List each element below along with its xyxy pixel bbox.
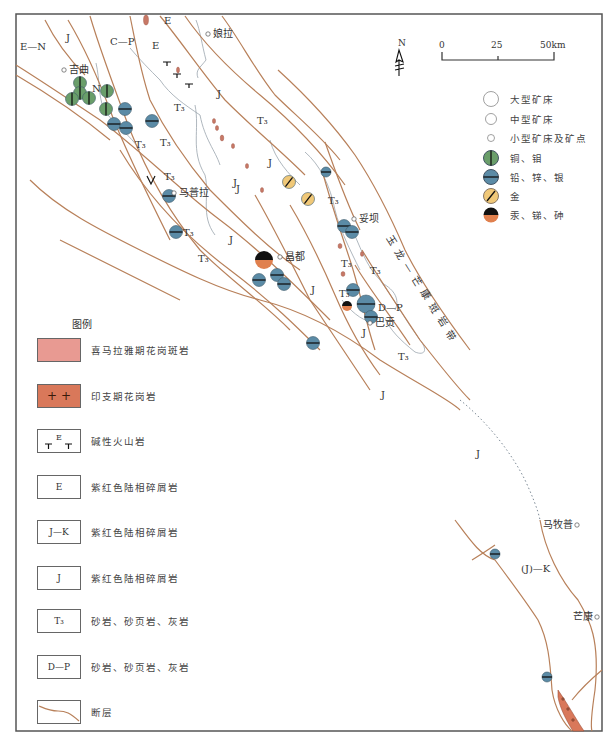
place-name: 娘拉 [213,27,233,39]
legend-medium-deposit: 中型矿床 [480,110,554,128]
legend-label: 汞、锑、砷 [510,208,565,222]
pb-zn-ag-deposit-icon [146,115,159,128]
fault-swatch [37,700,81,724]
legend-label: 断层 [91,705,113,719]
pb-zn-ag-deposit-icon [119,103,132,116]
north-arrow: N [395,38,406,76]
place-marker: 娘拉 [206,27,233,39]
inferred-fault [460,400,540,520]
unit-label: J [267,157,272,168]
unit-label: J [310,284,315,295]
place-marker: 芒康 [573,610,599,622]
unit-label: E [152,40,159,51]
unit-label: T₃ [398,351,409,362]
scale-tick-50: 50km [540,40,565,50]
place-name: 芒康 [573,610,593,622]
au-icon [480,187,502,205]
legend-label: 金 [510,189,521,203]
legend-label: 砂岩、砂页岩、灰岩 [91,660,190,674]
legend-t3: T₃ 砂岩、砂页岩、灰岩 [37,608,257,634]
place-name: 妥坝 [359,213,379,224]
unit-label: T₃ [198,253,209,264]
t3-swatch: T₃ [37,609,81,633]
legend-label: 小型矿床及矿点 [510,131,587,145]
j-swatch: J [37,566,81,590]
hg-sb-as-deposit-icon [342,301,352,311]
unit-label: J [475,448,480,459]
unit-label: T₃ [174,102,185,113]
unit-label: E—N [20,41,46,52]
legend-himalayan-porphyry: 喜马拉雅期花岗斑岩 [37,337,257,363]
legend-large-deposit: 大型矿床 [480,90,554,108]
place-marker: 昌都 [278,251,305,262]
volcanic-symbol-icon [41,442,77,450]
pb-zn-ag-deposit-icon [253,274,266,287]
alkaline-volcanic-swatch: E [37,429,81,453]
pb-zn-ag-deposit-icon [278,278,291,291]
indosinian-granite-swatch: + + [37,384,81,408]
scale-tick-25: 25 [491,40,502,50]
pb-zn-ag-icon [480,168,502,186]
unit-label: T₃ [328,195,339,206]
legend-cu-mo: 铜、钼 [480,149,543,167]
legend-label: 印支期花岗岩 [91,389,157,403]
place-marker: 马牧普 [543,518,579,530]
legend-label: 砂岩、砂页岩、灰岩 [91,614,190,628]
porphyry-belt-label: 玉龙—芒康斑岩带 [384,233,462,348]
legend-label: 紫红色陆相碎屑岩 [91,571,179,585]
pb-zn-ag-deposit-icon [346,226,359,239]
pb-zn-ag-deposit-icon [542,672,552,682]
legend-label: 喜马拉雅期花岗斑岩 [91,343,190,357]
unit-label: T₃ [183,227,194,238]
unit-label: T₃ [257,115,268,126]
au-deposit-icon [283,176,296,189]
pb-zn-ag-deposit-icon [321,167,331,177]
legend-label: 铅、锌、银 [510,170,565,184]
e-swatch: E [37,475,81,499]
d-p-swatch: D—P [37,655,81,679]
legend-au: 金 [480,187,521,205]
legend-pb-zn-ag: 铅、锌、银 [480,168,565,186]
pb-zn-ag-deposit-icon [170,226,183,239]
pb-zn-ag-deposit-icon [108,118,121,131]
legend-j-k: J—K 紫红色陆相碎屑岩 [37,519,257,545]
place-marker: 吉曲 [62,64,89,75]
himalayan-porphyry-swatch [37,338,81,362]
place-name: 马牧普 [543,518,573,530]
legend-label: 紫红色陆相碎屑岩 [91,525,179,539]
cu-mo-icon [480,149,502,167]
j-k-swatch: J—K [37,520,81,544]
legend-code: E [56,433,62,442]
legend-d-p: D—P 砂岩、砂页岩、灰岩 [37,654,257,680]
legend-label: 碱性火山岩 [91,434,146,448]
scale-bar [442,52,554,60]
unit-label: C—P [110,36,135,47]
legend-e: E 紫红色陆相碎屑岩 [37,474,257,500]
unit-label: J [216,88,221,99]
place-marker: 马普拉 [172,186,209,198]
legend-small-deposit: 小型矿床及矿点 [480,129,587,147]
pb-zn-ag-deposit-icon [490,549,500,559]
legend-fault: 断层 [37,699,257,725]
alkaline-volcanic-symbols [163,62,193,88]
hg-sb-as-deposit-icon [255,251,273,269]
unit-label: D—P [378,302,403,313]
place-name: 吉曲 [69,64,89,75]
unit-label: T₃ [370,265,381,276]
unit-label: N [92,83,101,94]
unit-label: T₃ [341,258,352,269]
legend-label: 铜、钼 [510,151,543,165]
hg-sb-as-icon [480,206,502,224]
unit-label: J [235,183,240,194]
unit-label: J [380,389,385,400]
unit-label: E [164,15,171,26]
place-name: 昌都 [285,251,305,262]
legend-hg-sb-as: 汞、锑、砷 [480,206,565,224]
place-name: 巴贡 [375,317,395,328]
pb-zn-ag-deposit-icon [357,295,375,313]
unit-label: T₃ [135,139,146,150]
unit-label: T₃ [339,288,350,299]
legend-alkaline-volcanic: E 碱性火山岩 [37,428,257,454]
cu-mo-deposit-icon [66,93,79,106]
pb-zn-ag-deposit-icon [120,122,133,135]
